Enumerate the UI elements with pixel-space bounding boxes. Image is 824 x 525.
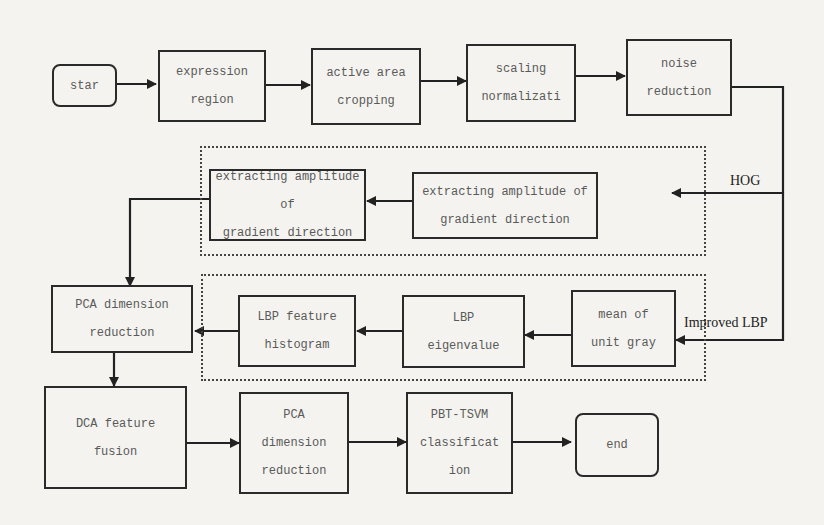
start-node: star bbox=[52, 64, 117, 107]
dca-feature-fusion-node: DCA feature fusion bbox=[44, 386, 187, 489]
hog-extract-left-node: extracting amplitude of gradient directi… bbox=[209, 169, 366, 241]
expression-region-node: expression region bbox=[158, 50, 266, 122]
lbp-feature-histogram-node: LBP feature histogram bbox=[238, 295, 356, 367]
pca-dimension-reduction-node: PCA dimension reduction bbox=[51, 285, 193, 353]
scaling-normalization-node: scaling normalizati bbox=[466, 44, 576, 122]
mean-unit-gray-node: mean of unit gray bbox=[571, 290, 676, 367]
arrow-hog-to-pca bbox=[130, 199, 209, 286]
pca-dimension-reduction-2-node: PCA dimension reduction bbox=[239, 392, 349, 494]
end-node: end bbox=[575, 413, 659, 477]
hog-extract-right-node: extracting amplitude of gradient directi… bbox=[412, 172, 598, 239]
improved-lbp-branch-label: Improved LBP bbox=[684, 315, 768, 331]
hog-branch-label: HOG bbox=[730, 173, 760, 189]
active-area-cropping-node: active area cropping bbox=[311, 48, 421, 125]
noise-reduction-node: noise reduction bbox=[626, 39, 732, 116]
lbp-eigenvalue-node: LBP eigenvalue bbox=[402, 295, 525, 368]
pbt-tsvm-classification-node: PBT-TSVM classificat ion bbox=[406, 392, 513, 494]
